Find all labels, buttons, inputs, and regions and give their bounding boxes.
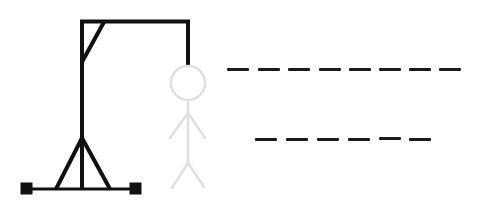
letter-blank	[379, 68, 401, 71]
letter-blank	[255, 138, 277, 141]
gallows-right-foot	[130, 183, 141, 194]
gallows-left-leg	[56, 138, 82, 189]
gallows-left-foot	[21, 183, 32, 194]
letter-blank	[439, 68, 461, 71]
figure-head	[171, 66, 205, 100]
figure-right-leg	[188, 163, 204, 187]
letter-blank	[317, 138, 339, 141]
letter-blank	[348, 138, 370, 141]
gallows	[21, 20, 190, 194]
letter-blank	[349, 68, 371, 71]
letter-blank	[379, 137, 401, 140]
letter-blank	[319, 68, 341, 71]
hangman-board	[0, 0, 486, 200]
letter-blank	[258, 68, 280, 71]
letter-blank	[409, 138, 431, 141]
letter-blank	[288, 68, 310, 71]
gallows-right-leg	[82, 138, 110, 189]
gallows-drawing	[0, 0, 486, 200]
figure-left-arm	[170, 113, 188, 138]
letter-blank	[227, 68, 249, 71]
figure-left-leg	[172, 163, 188, 188]
figure-right-arm	[188, 113, 205, 138]
hanged-figure	[170, 66, 205, 188]
letter-blank	[286, 138, 308, 141]
gallows-brace	[82, 22, 104, 62]
letter-blank	[409, 68, 431, 71]
